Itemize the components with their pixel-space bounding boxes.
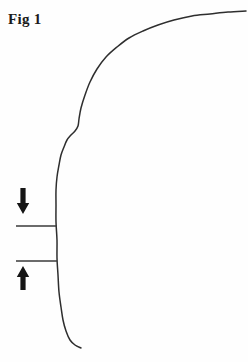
figure-container: Fig 1 <box>0 0 248 362</box>
profile-curve <box>56 11 246 348</box>
up-arrow-icon <box>17 266 29 290</box>
down-arrow-icon <box>17 188 29 214</box>
figure-drawing <box>0 0 248 362</box>
